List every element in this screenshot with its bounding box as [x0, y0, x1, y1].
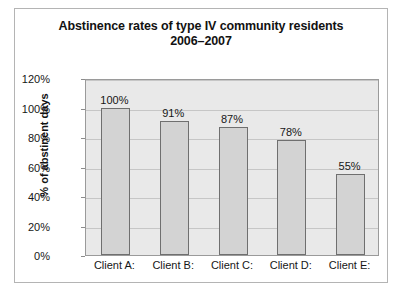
x-axis-tick-label: Client B: — [144, 259, 203, 271]
bar[interactable] — [101, 108, 130, 256]
y-axis-tick-label: 80% — [0, 132, 50, 144]
y-axis-tick-label: 0% — [0, 250, 50, 262]
bar-value-label: 100% — [85, 94, 144, 106]
x-axis-tick-label: Client A: — [85, 259, 144, 271]
y-axis-tick-mark — [81, 256, 85, 257]
x-axis-tick-label: Client E: — [320, 259, 379, 271]
bar-value-label: 78% — [261, 126, 320, 138]
bar[interactable] — [160, 121, 189, 255]
y-axis-tick-label: 120% — [0, 73, 50, 85]
chart-title: Abstinence rates of type IV community re… — [15, 19, 387, 49]
chart-frame: Abstinence rates of type IV community re… — [14, 8, 388, 283]
y-axis-tick-label: 40% — [0, 191, 50, 203]
chart-title-line-1: Abstinence rates of type IV community re… — [59, 19, 344, 33]
bar[interactable] — [219, 127, 248, 255]
bar-value-label: 55% — [320, 160, 379, 172]
chart-title-line-2: 2006–2007 — [15, 34, 387, 49]
y-axis-tick-label: 60% — [0, 162, 50, 174]
bar-value-label: 87% — [203, 113, 262, 125]
bar[interactable] — [336, 174, 365, 255]
y-axis-tick-label: 20% — [0, 221, 50, 233]
bar[interactable] — [277, 140, 306, 255]
x-axis-tick-label: Client D: — [261, 259, 320, 271]
y-axis-tick-label: 100% — [0, 103, 50, 115]
bar-value-label: 91% — [144, 107, 203, 119]
x-axis-tick-label: Client C: — [203, 259, 262, 271]
gridline — [86, 80, 378, 81]
